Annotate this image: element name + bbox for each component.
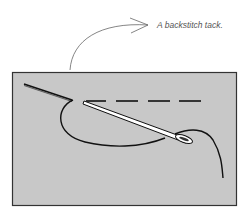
backstitch-illustration <box>0 0 248 215</box>
pointer-arrow-icon <box>70 18 148 70</box>
fabric-swatch <box>13 73 237 206</box>
